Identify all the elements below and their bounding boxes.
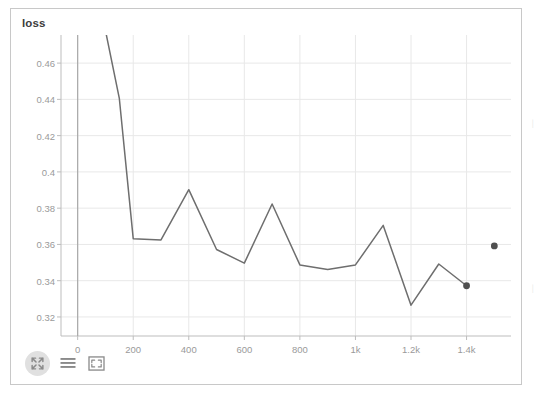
x-tick-label: 800: [292, 344, 308, 355]
expand-corners-glyph: [88, 356, 105, 371]
y-tick-label: 0.4: [19, 166, 55, 177]
y-tick-label: 0.42: [19, 130, 55, 141]
chart-toolbar[interactable]: [25, 351, 106, 376]
scan-artifact-right-top: │: [531, 120, 535, 127]
y-tick-label: 0.46: [19, 58, 55, 69]
scan-artifact-right-bottom: │: [531, 285, 535, 292]
y-tick-label: 0.32: [19, 311, 55, 322]
x-tick-label: 600: [236, 344, 252, 355]
chart-tick-marks: [57, 63, 467, 340]
expand-corners-icon[interactable]: [86, 354, 106, 374]
menu-lines-icon[interactable]: [58, 354, 78, 374]
x-tick-label: 1k: [350, 344, 360, 355]
x-tick-label: 1.4k: [458, 344, 476, 355]
series-line-loss: [105, 30, 466, 305]
x-tick-label: 400: [181, 344, 197, 355]
series-clip-group: [105, 30, 497, 305]
chart-series: [105, 30, 497, 305]
x-tick-label: 200: [125, 344, 141, 355]
data-point-marker: [463, 282, 470, 289]
data-point-marker: [491, 242, 498, 249]
loss-line-chart: [11, 9, 523, 386]
y-tick-label: 0.34: [19, 275, 55, 286]
y-tick-label: 0.44: [19, 94, 55, 105]
y-tick-label: 0.36: [19, 239, 55, 250]
chart-panel: loss 0.320.340.360.380.40.420.440.46 020…: [10, 8, 522, 385]
hamburger-glyph: [60, 357, 76, 371]
fullscreen-circle-icon[interactable]: [25, 351, 50, 376]
y-tick-label: 0.38: [19, 203, 55, 214]
fullscreen-arrows-glyph: [31, 357, 44, 370]
x-tick-label: 1.2k: [402, 344, 420, 355]
